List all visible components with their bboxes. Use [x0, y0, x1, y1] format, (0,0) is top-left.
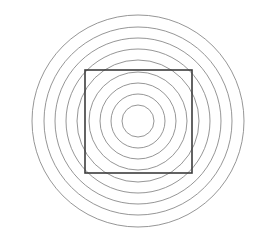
concentric-circles-diagram	[0, 0, 265, 246]
figure-background	[0, 0, 265, 246]
figure-canvas	[0, 0, 265, 246]
